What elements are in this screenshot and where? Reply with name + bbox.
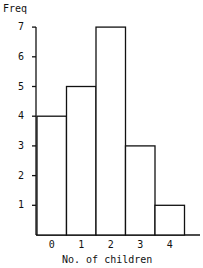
y-axis-label: Freq <box>3 4 27 14</box>
bar-0 <box>37 116 67 235</box>
x-tick-label: 3 <box>137 240 143 250</box>
y-tick-label: 2 <box>18 171 24 181</box>
bar-2 <box>96 27 126 235</box>
y-tick-label: 4 <box>18 111 24 121</box>
x-tick-label: 1 <box>78 240 84 250</box>
y-tick-label: 1 <box>18 200 24 210</box>
bar-4 <box>155 205 185 235</box>
x-axis-label: No. of children <box>62 255 152 265</box>
histogram <box>0 0 203 268</box>
bar-3 <box>126 146 156 235</box>
y-tick-label: 6 <box>18 52 24 62</box>
y-tick-label: 3 <box>18 141 24 151</box>
x-tick-label: 0 <box>49 240 55 250</box>
bar-1 <box>67 87 97 236</box>
x-tick-label: 4 <box>167 240 173 250</box>
y-tick-label: 7 <box>18 22 24 32</box>
y-tick-label: 5 <box>18 82 24 92</box>
x-tick-label: 2 <box>108 240 114 250</box>
